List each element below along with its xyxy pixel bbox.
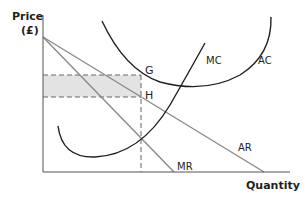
label-ac: AC bbox=[258, 55, 272, 66]
x-axis-label: Quantity bbox=[246, 179, 300, 192]
y-axis-label-line2: (£) bbox=[21, 24, 39, 37]
y-axis-label-line1: Price bbox=[12, 10, 43, 23]
loss-area bbox=[43, 75, 141, 97]
label-mc: MC bbox=[206, 55, 222, 66]
label-ar: AR bbox=[238, 142, 252, 153]
label-mr: MR bbox=[177, 161, 193, 172]
label-h: H bbox=[145, 89, 153, 102]
label-g: G bbox=[145, 64, 154, 77]
monopoly-loss-diagram: Price (£) Quantity G H MC AC AR MR bbox=[0, 0, 307, 199]
